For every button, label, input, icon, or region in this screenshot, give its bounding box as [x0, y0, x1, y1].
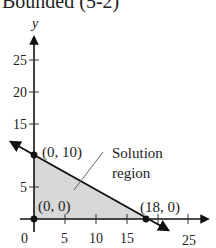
x-tick-5: 5: [61, 231, 68, 246]
y-tick-20: 20: [13, 85, 27, 100]
x-tick-25: 25: [182, 233, 196, 248]
x-tick-15: 15: [120, 231, 134, 246]
y-tick-15: 15: [13, 117, 27, 132]
chart-canvas: y 25 20 15 5 0 5 10 15 25 (0, 10) (0, 0)…: [0, 0, 216, 248]
vertex-18-0: [143, 216, 150, 223]
annotation-region: region: [112, 165, 151, 181]
x-tick-10: 10: [89, 231, 103, 246]
annotation-solution: Solution: [112, 145, 163, 161]
point-label-18-0: (18, 0): [140, 199, 180, 216]
y-tick-25: 25: [13, 53, 27, 68]
y-axis-label: y: [30, 16, 39, 31]
y-tick-5: 5: [20, 180, 27, 195]
vertex-0-10: [31, 152, 38, 159]
x-tick-0: 0: [21, 231, 28, 246]
vertex-0-0: [31, 216, 38, 223]
point-label-0-10: (0, 10): [42, 144, 82, 161]
point-label-0-0: (0, 0): [38, 198, 71, 215]
